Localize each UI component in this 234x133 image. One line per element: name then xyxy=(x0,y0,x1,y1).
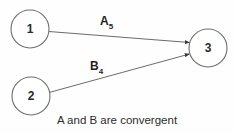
edge-b-label: B4 xyxy=(90,59,104,76)
edge-a-line xyxy=(49,32,190,43)
node-3: 3 xyxy=(189,29,227,67)
edge-b-label-subscript: 4 xyxy=(99,67,104,76)
convergent-graph-diagram: A5 B4 1 2 3 A and B are convergent xyxy=(0,0,234,133)
edge-b-line xyxy=(49,54,190,93)
diagram-caption: A and B are convergent xyxy=(57,114,178,126)
node-2: 2 xyxy=(12,77,50,115)
node-1-label: 1 xyxy=(27,22,34,36)
edge-b-label-base: B xyxy=(90,59,99,73)
diagram-canvas: A5 B4 1 2 3 A and B are convergent xyxy=(0,0,234,133)
node-1: 1 xyxy=(11,10,49,48)
edge-a-label: A5 xyxy=(100,14,114,31)
node-3-label: 3 xyxy=(205,41,212,55)
edge-a-label-subscript: 5 xyxy=(109,22,114,31)
edge-b-group: B4 xyxy=(49,54,190,93)
edge-a-group: A5 xyxy=(49,14,190,43)
node-2-label: 2 xyxy=(28,89,35,103)
edge-a-label-base: A xyxy=(100,14,109,28)
